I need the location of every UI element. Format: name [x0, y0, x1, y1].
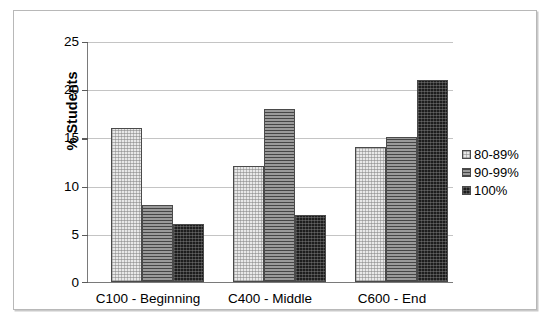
y-tick-20	[82, 90, 88, 91]
bar-c100-90-99	[142, 205, 173, 282]
bar-c400-80-89	[233, 166, 264, 282]
x-category-label-0: C100 - Beginning	[87, 291, 209, 306]
legend-swatch-icon-80-89	[462, 150, 471, 159]
y-tick-0	[82, 282, 88, 283]
y-tick-label-10: 10	[64, 180, 79, 194]
y-tick-label-0: 0	[71, 276, 79, 290]
x-category-label-1: C400 - Middle	[209, 291, 331, 306]
legend-swatch-icon-100	[462, 186, 471, 195]
bar-c600-80-89	[355, 147, 386, 282]
gridline-20	[88, 90, 453, 91]
y-tick-5	[82, 235, 88, 236]
bar-c400-90-99	[264, 109, 295, 283]
y-tick-10	[82, 187, 88, 188]
legend-item-90-99: 90-99%	[462, 164, 540, 181]
bar-c400-100	[295, 215, 326, 283]
y-tick-15	[82, 138, 88, 139]
y-axis-tick-labels: 0 5 10 15 20 25	[47, 42, 79, 283]
y-tick-label-25: 25	[64, 35, 79, 49]
y-tick-label-5: 5	[71, 228, 79, 242]
bar-c100-80-89	[111, 128, 142, 282]
legend-label-90-99: 90-99%	[474, 166, 519, 179]
chart-frame: % Students 0 5 10 15 20 25	[13, 10, 537, 310]
bar-c600-90-99	[386, 137, 417, 282]
x-category-label-2: C600 - End	[331, 291, 453, 306]
gridline-25	[88, 42, 453, 43]
y-tick-label-20: 20	[64, 83, 79, 97]
legend-label-80-89: 80-89%	[474, 148, 519, 161]
legend-item-100: 100%	[462, 182, 540, 199]
legend: 80-89% 90-99% 100%	[462, 146, 540, 200]
legend-swatch-icon-90-99	[462, 168, 471, 177]
y-tick-label-15: 15	[64, 132, 79, 146]
y-tick-25	[82, 42, 88, 43]
bar-c600-100	[417, 80, 448, 282]
plot-area	[87, 42, 453, 283]
legend-label-100: 100%	[474, 184, 507, 197]
bar-c100-100	[173, 224, 204, 282]
legend-item-80-89: 80-89%	[462, 146, 540, 163]
